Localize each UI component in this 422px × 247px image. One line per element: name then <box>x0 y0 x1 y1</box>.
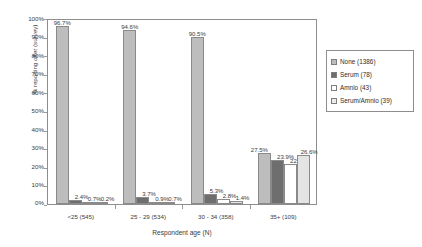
bar-serum-35plus: 23.9% <box>271 160 284 204</box>
bar-amnio-under25: 0.7% <box>82 202 95 204</box>
bar-amnio-30-34: 2.8% <box>217 199 230 204</box>
bar-label-none-30-34: 90.5% <box>189 31 206 37</box>
bar-serumamnio-35plus: 26.6% <box>297 155 310 204</box>
bar-group-35plus: 27.5% 23.9% 22.0% 26.6% <box>251 20 319 204</box>
legend-item-serum-amnio: Serum/Amnio (39) <box>331 94 410 107</box>
bar-label-none-under25: 96.7% <box>54 20 71 26</box>
bar-label-serum-30-34: 5.3% <box>210 188 224 194</box>
y-tick-40: 40% <box>14 127 44 133</box>
legend-swatch-serum-icon <box>331 72 337 78</box>
y-tick-60: 60% <box>14 90 44 96</box>
x-tick-25-29: 25 - 29 (534) <box>115 213 183 220</box>
y-tick-30: 30% <box>14 145 44 151</box>
y-axis-ticks: % reporting offer (survey) 100% 90% 80% … <box>10 0 44 247</box>
x-tick-under25: <25 (545) <box>47 213 115 220</box>
legend-label-serum-amnio: Serum/Amnio (39) <box>340 97 392 104</box>
bar-group-30-34: 90.5% 5.3% 2.8% 1.4% <box>183 20 251 204</box>
plot-area: 96.7% 2.4% 0.7% 0.2% 94. <box>47 19 317 205</box>
x-tick-30-34: 30 - 34 (358) <box>182 213 250 220</box>
bar-label-serumamnio-35plus: 26.6% <box>301 149 318 155</box>
legend-label-none: None (1386) <box>340 58 376 65</box>
bar-label-amnio-30-34: 2.8% <box>223 193 237 199</box>
y-tick-70: 70% <box>14 71 44 77</box>
y-tick-100: 100% <box>14 16 44 22</box>
legend-swatch-none-icon <box>331 59 337 65</box>
y-tick-10: 10% <box>14 182 44 188</box>
legend-label-amnio: Amnio (43) <box>340 84 371 91</box>
bar-group-25-29: 94.6% 3.7% 0.9% 0.7% <box>116 20 184 204</box>
bar-serumamnio-25-29: 0.7% <box>162 202 175 204</box>
y-tick-90: 90% <box>14 34 44 40</box>
bar-serum-30-34: 5.3% <box>204 194 217 204</box>
bar-serum-25-29: 3.7% <box>136 197 149 204</box>
bar-label-serum-under25: 2.4% <box>75 194 89 200</box>
legend-item-none: None (1386) <box>331 55 410 68</box>
legend-label-serum: Serum (78) <box>340 71 372 78</box>
y-tick-80: 80% <box>14 53 44 59</box>
bar-serumamnio-30-34: 1.4% <box>230 201 243 204</box>
bar-serumamnio-under25: 0.2% <box>95 202 108 204</box>
legend-item-serum: Serum (78) <box>331 68 410 81</box>
y-tick-20: 20% <box>14 164 44 170</box>
bar-label-serumamnio-under25: 0.2% <box>101 196 115 202</box>
legend-swatch-amnio-icon <box>331 85 337 91</box>
bar-label-serumamnio-30-34: 1.4% <box>236 195 250 201</box>
bar-chart: % reporting offer (survey) 100% 90% 80% … <box>0 0 422 247</box>
x-tick-35plus: 35+ (109) <box>250 213 318 220</box>
bar-none-30-34: 90.5% <box>191 37 204 204</box>
legend-item-amnio: Amnio (43) <box>331 81 410 94</box>
bar-group-under25: 96.7% 2.4% 0.7% 0.2% <box>48 20 116 204</box>
bar-label-none-35plus: 27.5% <box>251 147 268 153</box>
bar-amnio-35plus: 22.0% <box>284 164 297 204</box>
bar-none-25-29: 94.6% <box>123 30 136 204</box>
bar-label-serumamnio-25-29: 0.7% <box>168 196 182 202</box>
legend: None (1386) Serum (78) Amnio (43) Serum/… <box>326 50 414 112</box>
bar-none-under25: 96.7% <box>56 26 69 204</box>
bar-label-serum-25-29: 3.7% <box>142 191 156 197</box>
y-tick-50: 50% <box>14 108 44 114</box>
bar-label-none-25-29: 94.6% <box>121 24 138 30</box>
legend-swatch-serum-amnio-icon <box>331 98 337 104</box>
x-axis-title: Respondent age (N) <box>47 229 317 236</box>
y-tick-0: 0% <box>14 200 44 206</box>
bar-serum-under25: 2.4% <box>69 200 82 204</box>
bar-amnio-25-29: 0.9% <box>149 202 162 204</box>
bar-none-35plus: 27.5% <box>258 153 271 204</box>
